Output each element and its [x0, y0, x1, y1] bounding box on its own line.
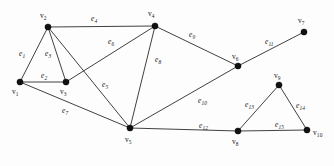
vertex-label-v3: v3	[60, 88, 67, 96]
graph-edge-e5	[48, 27, 130, 128]
graph-edge-e4	[48, 26, 155, 27]
edge-label-e6: e6	[108, 38, 114, 46]
edge-label-subscript: 8	[158, 59, 161, 65]
edge-label-e15: e15	[275, 121, 284, 129]
edge-label-subscript: 2	[44, 75, 47, 81]
graph-edge-e15	[238, 130, 307, 131]
vertex-label-subscript: 4	[152, 13, 155, 19]
vertex-label-v2: v2	[40, 12, 47, 20]
edge-label-e13: e13	[245, 101, 254, 109]
edge-label-subscript: 14	[299, 105, 305, 111]
edge-label-e7: e7	[62, 107, 68, 115]
graph-vertex-v10	[304, 127, 310, 133]
vertex-label-subscript: 10	[317, 132, 323, 138]
vertex-label-subscript: 1	[16, 91, 19, 97]
edge-label-subscript: 6	[111, 41, 114, 47]
graph-vertex-v9	[276, 82, 282, 88]
vertex-label-v4: v4	[148, 10, 155, 18]
vertex-label-subscript: 7	[302, 20, 305, 26]
edge-label-e10: e10	[198, 97, 207, 105]
edge-label-subscript: 11	[268, 41, 273, 47]
edge-label-subscript: 4	[94, 18, 97, 24]
edge-label-subscript: 3	[48, 53, 51, 59]
vertex-label-subscript: 2	[44, 15, 47, 21]
graph-vertex-v4	[152, 23, 158, 29]
vertex-label-subscript: 8	[236, 141, 239, 147]
edge-label-subscript: 15	[278, 124, 284, 130]
graph-edge-e7	[20, 82, 130, 128]
vertex-label-subscript: 6	[236, 56, 239, 62]
edge-label-e2: e2	[41, 72, 47, 80]
vertex-label-subscript: 5	[129, 139, 132, 145]
edge-label-e9: e9	[189, 31, 195, 39]
edge-label-e4: e4	[91, 15, 97, 23]
edges-group	[20, 26, 307, 131]
vertex-label-v8: v8	[232, 138, 239, 146]
edge-label-e5: e5	[102, 81, 108, 89]
vertex-label-v5: v5	[125, 136, 132, 144]
vertex-label-v1: v1	[12, 88, 19, 96]
edge-label-subscript: 13	[248, 104, 254, 110]
edge-label-subscript: 5	[105, 84, 108, 90]
graph-edge-e8	[130, 26, 155, 128]
graph-edge-e12	[130, 128, 238, 131]
graph-vertex-v5	[127, 125, 133, 131]
edge-label-subscript: 12	[202, 125, 208, 131]
vertex-label-subscript: 9	[278, 75, 281, 81]
edge-label-subscript: 10	[201, 100, 207, 106]
graph-vertex-v8	[235, 128, 241, 134]
edge-label-e14: e14	[296, 102, 305, 110]
edge-label-e3: e3	[45, 50, 51, 58]
vertex-label-v10: v10	[313, 129, 322, 137]
graph-canvas	[0, 0, 334, 166]
graph-vertex-v1	[17, 79, 23, 85]
graph-edge-e9	[155, 26, 238, 66]
vertex-label-v6: v6	[232, 53, 239, 61]
vertex-label-subscript: 3	[64, 91, 67, 97]
edge-label-e1: e1	[19, 50, 25, 58]
graph-edge-e10	[130, 66, 238, 128]
graph-vertex-v6	[235, 63, 241, 69]
graph-vertex-v2	[45, 24, 51, 30]
graph-diagram: e1e2e3e4e5e6e7e8e9e10e11e12e13e14e15v1v2…	[0, 0, 334, 166]
edge-label-subscript: 9	[192, 34, 195, 40]
edge-label-e8: e8	[155, 56, 161, 64]
graph-vertex-v3	[63, 79, 69, 85]
vertex-label-v7: v7	[298, 17, 305, 25]
edge-label-e12: e12	[199, 122, 208, 130]
vertex-label-v9: v9	[274, 72, 281, 80]
graph-edge-e6	[66, 26, 155, 82]
graph-vertex-v7	[301, 29, 307, 35]
edge-label-e11: e11	[265, 38, 274, 46]
edge-label-subscript: 7	[65, 110, 68, 116]
edge-label-subscript: 1	[22, 53, 25, 59]
